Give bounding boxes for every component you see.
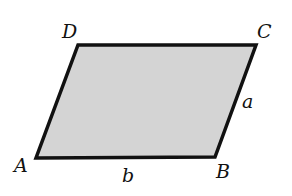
parallelogram-shape	[36, 45, 256, 158]
parallelogram-diagram: D C a A b B	[0, 0, 292, 196]
side-label-a: a	[242, 90, 253, 112]
vertex-label-d: D	[61, 20, 77, 42]
side-label-b: b	[122, 164, 134, 186]
vertex-label-a: A	[12, 154, 28, 176]
vertex-label-c: C	[257, 20, 272, 42]
vertex-label-b: B	[215, 160, 230, 182]
